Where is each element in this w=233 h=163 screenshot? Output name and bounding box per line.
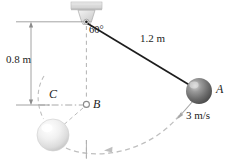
point-b-marker <box>83 101 89 107</box>
sphere-a-icon <box>186 78 212 104</box>
trajectory-direction-arrow-icon <box>104 147 113 153</box>
label-point-b: B <box>93 98 100 110</box>
dimension-arrow-up-icon <box>29 22 33 28</box>
arc-c <box>38 76 44 119</box>
dimension-arrow-down-icon <box>29 99 33 105</box>
sphere-b-icon <box>37 119 69 151</box>
label-height-dimension: 0.8 m <box>6 54 31 65</box>
trajectory-arc-icon <box>66 112 182 154</box>
pendulum-figure: 0.8 m 1.2 m 60° A B C 3 m/s <box>0 0 233 163</box>
label-velocity: 3 m/s <box>186 110 210 121</box>
pendulum-diagram-svg <box>0 0 233 163</box>
label-rod-length: 1.2 m <box>140 33 165 44</box>
label-point-a: A <box>216 83 223 95</box>
label-angle: 60° <box>89 25 104 36</box>
label-point-c: C <box>49 88 57 100</box>
